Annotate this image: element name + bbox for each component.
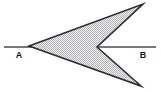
figure-container: A B	[0, 0, 161, 92]
geometry-figure: A B	[0, 0, 161, 92]
vertex-label-b: B	[140, 50, 147, 60]
vertex-label-a: A	[16, 50, 23, 60]
